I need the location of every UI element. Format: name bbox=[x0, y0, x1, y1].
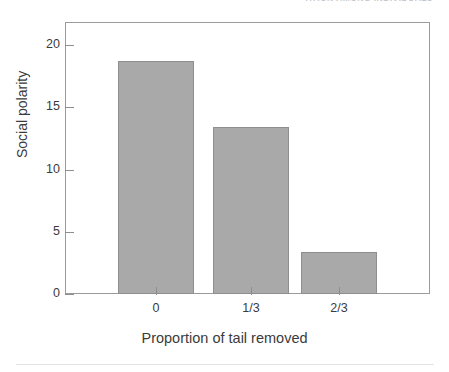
x-axis-tick-label: 0 bbox=[153, 301, 160, 315]
y-axis-tick-label: 20 bbox=[46, 37, 60, 51]
bar-category-0 bbox=[118, 61, 194, 294]
y-axis-tick-label: 15 bbox=[46, 99, 60, 113]
y-axis-tick bbox=[65, 232, 74, 233]
y-axis-tick bbox=[65, 107, 74, 108]
bars-layer bbox=[65, 22, 430, 294]
x-axis-tick-label: 2/3 bbox=[330, 301, 347, 315]
x-axis-title: Proportion of tail removed bbox=[0, 330, 449, 346]
y-axis-tick-label: 5 bbox=[53, 224, 60, 238]
bar-category-1 bbox=[213, 127, 289, 294]
bar-chart-figure: ATION AMONG INDIVIDUALS Social polarity … bbox=[0, 0, 449, 372]
x-axis-tick-label: 1/3 bbox=[242, 301, 259, 315]
y-axis-tick bbox=[65, 170, 74, 171]
y-axis-tick-label: 0 bbox=[53, 286, 60, 300]
y-axis-title: Social polarity bbox=[14, 71, 30, 158]
running-head: ATION AMONG INDIVIDUALS bbox=[306, 0, 433, 3]
x-axis-tick bbox=[339, 287, 340, 295]
y-axis-tick bbox=[65, 294, 74, 295]
y-axis-tick-label: 10 bbox=[46, 162, 60, 176]
x-axis-tick bbox=[251, 287, 252, 295]
footer-rule bbox=[16, 364, 434, 365]
x-axis-tick bbox=[156, 287, 157, 295]
y-axis-tick bbox=[65, 45, 74, 46]
